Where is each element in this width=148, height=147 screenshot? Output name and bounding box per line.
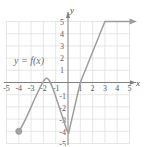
graph-figure: x y -5 -4 -3 -2 -1 1 2 3 4 5 5 4 3 2 1 -…	[0, 0, 148, 146]
function-curve-group	[19, 18, 137, 133]
y-tick-label: 4	[60, 30, 64, 39]
coordinate-plane-svg: x y -5 -4 -3 -2 -1 1 2 3 4 5 5 4 3 2 1 -…	[0, 0, 148, 146]
x-tick-label: -3	[28, 84, 35, 93]
ray-arrow-icon	[130, 18, 138, 24]
y-tick-label: -1	[59, 92, 66, 101]
y-tick-label: 1	[60, 66, 64, 75]
axis-arrowheads	[66, 12, 136, 85]
x-tick-label: 2	[91, 84, 95, 93]
function-label: y = f(x)	[13, 55, 45, 67]
rising-line-segment	[69, 22, 105, 134]
x-tick-label: 5	[128, 84, 132, 93]
y-tick-label: 5	[60, 18, 64, 27]
x-tick-label: 3	[103, 84, 107, 93]
x-axis-label: x	[135, 78, 140, 88]
x-tick-label: 4	[115, 84, 119, 93]
x-tick-label: -4	[15, 84, 22, 93]
y-tick-label: 2	[60, 54, 64, 63]
y-tick-label: -4	[59, 128, 66, 137]
x-tick-label: -5	[3, 84, 10, 93]
y-tick-label: -5	[59, 140, 66, 147]
closed-endpoint-marker	[16, 128, 22, 134]
x-tick-labels: -5 -4 -3 -2 -1 1 2 3 4 5	[3, 84, 131, 93]
y-tick-label: 3	[60, 42, 64, 51]
y-axis-label: y	[69, 5, 74, 15]
